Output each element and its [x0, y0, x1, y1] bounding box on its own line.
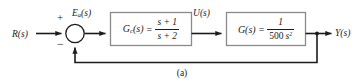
controller-equals-sign: = — [147, 24, 153, 35]
controller-denominator: s + 2 — [155, 31, 179, 41]
plant-fraction-bar — [267, 29, 294, 30]
signal-label-control: U(s) — [193, 9, 210, 19]
signal-label-output: Y(s) — [335, 29, 350, 39]
controller-numerator: s + 1 — [155, 17, 179, 27]
plant-equals-sign: = — [259, 24, 265, 35]
summing-junction-circle — [66, 24, 84, 42]
signal-label-input: R(s) — [12, 30, 28, 40]
signal-label-error: Ea(s) — [72, 9, 91, 19]
summing-junction-minus-sign: − — [57, 38, 64, 50]
figure-caption: (a) — [0, 68, 364, 78]
summing-junction-plus-sign: + — [57, 12, 63, 23]
controller-transfer-function-name: Gc(s) — [123, 23, 144, 34]
plant-denominator: 500 s2 — [267, 31, 294, 41]
controller-fraction: s + 1 s + 2 — [155, 17, 179, 41]
controller-fraction-bar — [155, 29, 179, 30]
plant-block: G(s) = 1 500 s2 — [228, 14, 304, 44]
plant-fraction: 1 500 s2 — [267, 17, 294, 41]
plant-numerator: 1 — [276, 17, 285, 27]
block-diagram-figure: R(s) Ea(s) U(s) Y(s) + − Gc(s) = s + 1 s… — [0, 0, 364, 83]
controller-block: Gc(s) = s + 1 s + 2 — [112, 14, 190, 44]
plant-transfer-function-name: G(s) — [238, 24, 256, 35]
